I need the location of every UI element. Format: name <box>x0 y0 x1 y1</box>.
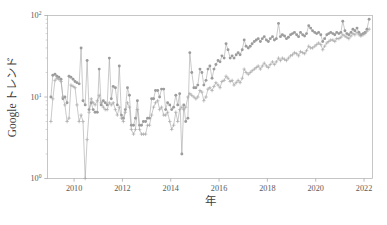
data-point <box>353 29 356 32</box>
data-point <box>287 36 290 39</box>
data-point <box>229 57 232 60</box>
data-point <box>225 42 228 45</box>
data-point <box>202 84 205 87</box>
data-point <box>186 95 190 99</box>
data-point <box>319 33 322 36</box>
data-point <box>84 103 87 106</box>
data-point <box>240 76 244 80</box>
data-point <box>251 42 254 45</box>
data-point <box>194 86 197 89</box>
data-point <box>293 31 296 34</box>
data-point <box>170 128 174 132</box>
data-point <box>95 99 99 103</box>
data-point <box>80 46 83 49</box>
data-point <box>116 113 120 117</box>
data-point <box>241 48 244 51</box>
data-point <box>333 33 336 36</box>
data-point <box>341 20 344 23</box>
data-point <box>223 57 226 60</box>
data-point <box>356 27 359 30</box>
data-point <box>184 120 187 123</box>
data-point <box>128 105 132 109</box>
data-point <box>69 76 72 79</box>
data-point <box>199 68 202 71</box>
data-point <box>263 35 266 38</box>
data-point <box>158 96 161 99</box>
data-point <box>81 120 85 124</box>
data-point <box>49 96 52 99</box>
data-point <box>138 128 142 132</box>
data-point <box>204 95 208 99</box>
data-point <box>166 110 170 114</box>
data-point <box>176 103 179 106</box>
data-point <box>124 110 128 114</box>
data-point <box>275 37 278 40</box>
data-point <box>174 110 178 114</box>
data-point <box>196 84 199 87</box>
data-point <box>233 57 236 60</box>
data-point <box>339 31 342 34</box>
data-point <box>305 49 309 53</box>
data-point <box>269 37 272 40</box>
data-point <box>186 117 189 120</box>
data-point <box>89 97 93 101</box>
data-point <box>259 40 262 43</box>
x-tick-label-2: 2014 <box>163 184 179 193</box>
series-series-plus <box>49 27 371 180</box>
data-point <box>200 71 203 74</box>
data-point <box>162 88 165 91</box>
data-point <box>170 108 173 111</box>
data-point <box>174 94 177 97</box>
x-tick-label-5: 2020 <box>308 184 324 193</box>
y-axis-tick-labels: 100101102 <box>31 10 42 183</box>
data-point <box>297 35 300 38</box>
data-point <box>144 132 148 136</box>
x-axis-label: 年 <box>205 194 216 207</box>
data-point <box>323 44 327 48</box>
data-point <box>321 40 324 43</box>
data-point <box>92 108 95 111</box>
data-point <box>219 60 222 63</box>
y-tick-label-1: 101 <box>31 92 42 102</box>
data-point <box>211 77 214 80</box>
data-point <box>344 29 347 32</box>
data-point <box>152 97 155 100</box>
data-point <box>307 24 310 27</box>
x-axis-major-ticks <box>74 179 364 182</box>
data-point <box>172 123 176 127</box>
data-point <box>305 32 308 35</box>
data-point <box>114 108 118 112</box>
data-point <box>78 82 81 85</box>
data-point <box>207 68 210 71</box>
x-axis-tick-labels: 2010201220142016201820202022 <box>66 184 372 193</box>
data-point <box>166 101 169 104</box>
x-tick-label-0: 2010 <box>66 184 82 193</box>
data-point <box>176 120 180 124</box>
data-point <box>110 97 113 100</box>
data-point <box>267 40 270 43</box>
data-point <box>164 108 167 111</box>
data-point <box>275 60 279 64</box>
x-tick-label-6: 2022 <box>356 184 372 193</box>
data-point <box>249 45 252 48</box>
data-point <box>277 22 280 25</box>
data-point <box>205 79 208 82</box>
data-point <box>114 86 117 89</box>
data-point <box>190 71 193 74</box>
data-point <box>214 63 217 66</box>
y-axis-label: Google トレンド <box>6 57 19 138</box>
y-tick-label-2: 102 <box>31 10 42 20</box>
data-point <box>85 138 89 142</box>
data-point <box>98 68 101 71</box>
data-point <box>261 64 265 68</box>
data-point <box>271 35 274 38</box>
data-point <box>86 59 89 62</box>
data-series-group <box>49 18 371 181</box>
data-point <box>132 124 135 127</box>
data-point <box>104 101 107 104</box>
data-point <box>150 113 154 117</box>
data-point <box>67 116 71 120</box>
data-point <box>148 123 152 127</box>
data-point <box>243 39 246 42</box>
data-point <box>221 54 224 57</box>
